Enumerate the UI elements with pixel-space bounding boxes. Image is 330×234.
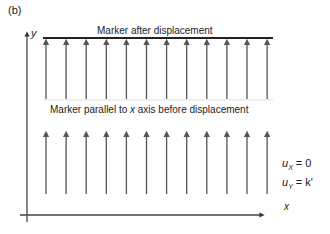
y-axis-label: y [31,27,37,39]
equation-ux: uX = 0 [282,156,313,175]
middle-caption-pre: Marker parallel to [50,104,130,115]
panel-label: (b) [8,4,21,16]
eq-rhs: = k' [293,176,313,188]
arrows-after-displacement [46,42,267,99]
equation-uy: uY = k' [282,175,313,194]
eq-rhs: = 0 [293,157,312,169]
middle-caption-post: axis before displacement [135,104,248,115]
middle-caption: Marker parallel to x axis before displac… [50,104,248,115]
x-axis-label: x [284,201,289,212]
top-caption: Marker after displacement [97,25,213,36]
arrows-before-displacement [46,134,267,194]
equations: uX = 0 uY = k' [282,156,313,194]
